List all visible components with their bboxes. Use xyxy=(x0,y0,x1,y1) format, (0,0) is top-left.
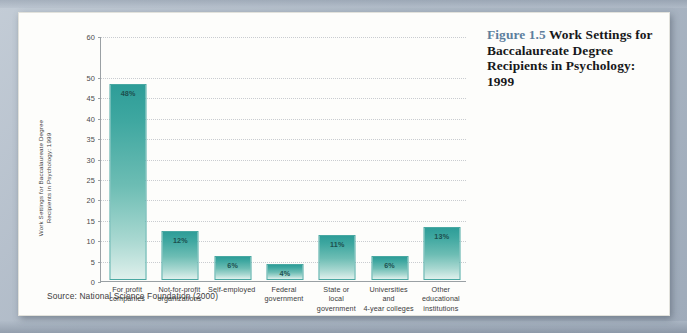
source-note: Source: National Science Foundation (200… xyxy=(47,291,218,301)
x-axis-category-label: Federalgovernment xyxy=(258,285,310,304)
bar-value-label: 12% xyxy=(163,236,198,245)
x-axis-category-line: institutions xyxy=(415,304,467,313)
x-axis-category-label: Othereducationalinstitutions xyxy=(415,285,467,313)
y-axis-tick-mark xyxy=(98,262,101,263)
y-axis-tick-label: 10 xyxy=(86,237,95,246)
bar-value-label: 6% xyxy=(215,261,250,270)
x-axis-category-line: government xyxy=(258,294,310,303)
y-axis-tick-label: 60 xyxy=(86,33,95,42)
bar[interactable]: 48% xyxy=(110,84,147,280)
y-axis-tick-mark xyxy=(98,119,101,120)
bar[interactable]: 11% xyxy=(319,235,356,280)
x-axis-category-label: State orlocalgovernment xyxy=(310,285,362,313)
bar-value-label: 11% xyxy=(320,240,355,249)
y-axis-tick-label: 15 xyxy=(86,216,95,225)
x-axis-category-line: and xyxy=(362,294,414,303)
y-axis-tick-label: 20 xyxy=(86,196,95,205)
x-axis-category-line: Federal xyxy=(258,285,310,294)
bar-slot: 12% xyxy=(154,37,206,280)
chart-canvas: 48%12%6%4%11%6%13% xyxy=(100,37,466,282)
page-edge-top xyxy=(0,0,687,8)
bar[interactable]: 6% xyxy=(214,256,251,281)
y-axis-tick-mark xyxy=(98,139,101,140)
x-axis-category-line: government xyxy=(310,304,362,313)
y-axis-tick-label: 25 xyxy=(86,175,95,184)
bar-slot: 13% xyxy=(416,37,468,280)
y-axis-tick-label: 30 xyxy=(86,155,95,164)
bar-slot: 11% xyxy=(311,37,363,280)
x-axis-category-line: Universities xyxy=(362,285,414,294)
page-edge-bottom xyxy=(0,321,687,333)
y-axis-tick-mark xyxy=(98,160,101,161)
y-axis-tick-mark xyxy=(98,221,101,222)
bar-value-label: 48% xyxy=(111,89,146,98)
x-axis-category-line: Other xyxy=(415,285,467,294)
bar[interactable]: 12% xyxy=(162,231,199,280)
bar-series: 48%12%6%4%11%6%13% xyxy=(102,37,466,280)
y-axis-tick-mark xyxy=(98,78,101,79)
x-axis-category-line: State or xyxy=(310,285,362,294)
x-axis-category-line: educational xyxy=(415,294,467,303)
y-axis-title: Work Settings for Baccalaureate Degree R… xyxy=(37,103,59,253)
bar-slot: 48% xyxy=(102,37,154,280)
x-axis-category-line: 4-year colleges xyxy=(362,304,414,313)
bar-value-label: 4% xyxy=(267,269,302,278)
y-axis-tick-mark xyxy=(98,98,101,99)
bar[interactable]: 4% xyxy=(266,264,303,280)
y-axis-tick-label: 0 xyxy=(91,278,95,287)
scanned-page: Figure 1.5 Work Settings for Baccalaurea… xyxy=(0,0,687,333)
y-axis-tick-label: 35 xyxy=(86,135,95,144)
bar-value-label: 6% xyxy=(372,261,407,270)
x-axis-category-line: local xyxy=(310,294,362,303)
y-axis-title-line-2: Recipients in Psychology: 1999 xyxy=(45,103,53,253)
y-axis-tick-label: 50 xyxy=(86,73,95,82)
y-axis-tick-mark xyxy=(98,200,101,201)
bar-slot: 6% xyxy=(363,37,415,280)
y-axis-title-line-1: Work Settings for Baccalaureate Degree xyxy=(37,103,45,253)
bar-slot: 4% xyxy=(259,37,311,280)
bar[interactable]: 13% xyxy=(423,227,460,280)
figure-caption: Figure 1.5 Work Settings for Baccalaurea… xyxy=(487,27,665,89)
y-axis-tick-mark xyxy=(98,241,101,242)
y-axis-tick-label: 5 xyxy=(91,257,95,266)
bar[interactable]: 6% xyxy=(371,256,408,281)
y-axis-tick-label: 40 xyxy=(86,114,95,123)
figure-card: Figure 1.5 Work Settings for Baccalaurea… xyxy=(18,12,670,316)
x-axis-category-label: Universitiesand4-year colleges xyxy=(362,285,414,313)
chart-plot-area: Work Settings for Baccalaureate Degree R… xyxy=(45,37,475,299)
bar-value-label: 13% xyxy=(424,232,459,241)
figure-number: Figure 1.5 xyxy=(487,27,546,42)
y-axis-tick-mark xyxy=(98,37,101,38)
y-axis-tick-mark xyxy=(98,180,101,181)
y-axis-tick-label: 45 xyxy=(86,94,95,103)
y-axis-tick-labels: 6050454035302520151050 xyxy=(73,37,95,282)
y-axis-tick-mark xyxy=(98,282,101,283)
bar-slot: 6% xyxy=(207,37,259,280)
